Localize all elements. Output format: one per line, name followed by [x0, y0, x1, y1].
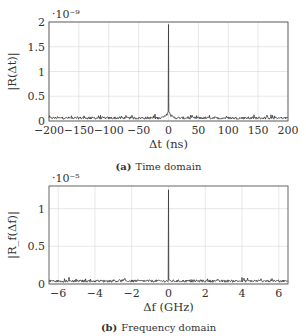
x-tick-label: −6 [50, 287, 66, 300]
y-tick-label: 0 [38, 115, 45, 128]
x-tick-label: −150 [64, 124, 94, 137]
x-tick-label: −2 [124, 287, 140, 300]
y-tick-labels: 00.511.52 [28, 16, 46, 128]
x-tick-label: −4 [87, 287, 103, 300]
x-tick-label: 200 [278, 124, 299, 137]
data-series [49, 24, 288, 119]
x-tick-label: 50 [191, 124, 205, 137]
caption-label: (a) [116, 161, 132, 172]
x-tick-label: −50 [127, 124, 150, 137]
y-axis-label: |R(Δt)| [5, 52, 20, 90]
x-axis-label: Δf (GHz) [143, 300, 193, 314]
time-domain-plot: −200−150−100−5005010015020000.511.52·10⁻… [5, 8, 299, 172]
caption-text: Frequency domain [121, 322, 216, 333]
x-tick-labels: −200−150−100−50050100150200 [34, 124, 299, 137]
y-tick-labels: 00.51 [28, 203, 46, 291]
y-tick-label: 0.5 [28, 240, 46, 253]
x-tick-label: 0 [165, 287, 172, 300]
x-tick-label: 0 [165, 124, 172, 137]
y-tick-label: 2 [38, 16, 45, 29]
figure: −200−150−100−5005010015020000.511.52·10⁻… [0, 0, 306, 336]
y-tick-label: 0 [38, 278, 45, 291]
x-tick-label: −100 [94, 124, 124, 137]
x-tick-label: 6 [275, 287, 282, 300]
caption-label: (b) [101, 322, 117, 333]
y-axis-exponent: ·10⁻⁹ [52, 8, 80, 21]
x-tick-label: 100 [218, 124, 239, 137]
x-tick-label: 4 [239, 287, 246, 300]
y-axis-label: |R_f(Δf)| [5, 211, 20, 259]
figure-caption: (b)Frequency domain [101, 322, 217, 333]
data-series [49, 190, 288, 282]
x-tick-label: 150 [248, 124, 269, 137]
y-tick-label: 0.5 [28, 90, 46, 103]
y-tick-label: 1.5 [28, 41, 46, 54]
y-tick-label: 1 [38, 203, 45, 216]
x-axis-label: Δt (ns) [149, 137, 188, 151]
x-tick-label: 2 [202, 287, 209, 300]
y-axis-exponent: ·10⁻⁵ [52, 172, 80, 185]
y-tick-label: 1 [38, 66, 45, 79]
frequency-domain-plot: −6−4−2024600.51·10⁻⁵Δf (GHz)|R_f(Δf)|(b)… [5, 172, 288, 333]
x-tick-labels: −6−4−20246 [50, 287, 282, 300]
caption-text: Time domain [136, 161, 203, 172]
figure-caption: (a)Time domain [116, 161, 202, 172]
